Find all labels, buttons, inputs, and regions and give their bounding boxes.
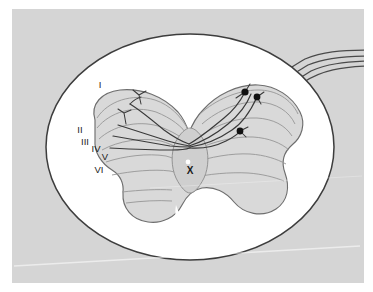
neuron-soma-2 xyxy=(254,94,261,101)
lamina-label-iii: III xyxy=(81,136,89,147)
lamina-label-iv: IV xyxy=(92,143,102,154)
spinal-cord-diagram: I II III IV V VI X xyxy=(0,0,373,292)
figure-root: I II III IV V VI X xyxy=(0,0,373,292)
lamina-label-i: I xyxy=(99,79,102,90)
neuron-soma-1 xyxy=(241,88,248,95)
lamina-label-v: V xyxy=(102,151,109,162)
lamina-label-x: X xyxy=(187,165,194,176)
central-canal xyxy=(186,160,191,165)
lamina-label-vi: VI xyxy=(95,164,104,175)
neuron-soma-3 xyxy=(237,128,244,135)
lamina-label-ii: II xyxy=(77,124,82,135)
